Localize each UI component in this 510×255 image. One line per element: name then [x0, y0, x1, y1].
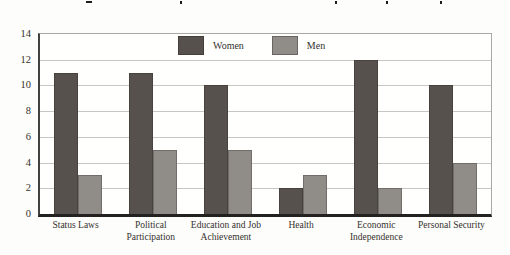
cropped-title-fragment: [86, 1, 92, 3]
plot-area: Women Men: [38, 33, 492, 217]
y-tick-label-0: 0: [0, 208, 31, 219]
bar-men: [153, 150, 177, 214]
bar-group: [115, 34, 190, 214]
legend: Women Men: [178, 36, 325, 55]
bar-group: [266, 34, 341, 214]
bar-women: [204, 85, 228, 214]
legend-label-women: Women: [213, 40, 244, 51]
x-category-label: Status Laws: [38, 219, 113, 244]
bar-women: [354, 60, 378, 214]
x-category-label: Personal Security: [414, 219, 489, 244]
bar-group: [416, 34, 491, 214]
bar-group: [190, 34, 265, 214]
bar-men: [378, 188, 402, 214]
y-tick-label-10: 10: [0, 79, 31, 90]
bar-men: [303, 175, 327, 214]
bar-women: [54, 73, 78, 214]
x-axis-labels: Status LawsPolitical ParticipationEducat…: [38, 219, 489, 244]
cropped-title-fragment: [440, 1, 442, 4]
y-tick-label-6: 6: [0, 131, 31, 142]
bar-men: [453, 163, 477, 214]
x-category-label: Economic Independence: [339, 219, 414, 244]
bar-men: [78, 175, 102, 214]
legend-item-men: Men: [272, 36, 325, 55]
bar-women: [429, 85, 453, 214]
bar-group: [40, 34, 115, 214]
bar-groups: [40, 34, 491, 214]
x-category-label: Political Participation: [113, 219, 188, 244]
men-color-swatch: [272, 36, 298, 55]
bar-women: [129, 73, 153, 214]
women-color-swatch: [178, 36, 204, 55]
x-category-label: Health: [264, 219, 339, 244]
bar-group: [341, 34, 416, 214]
cropped-title-fragment: [180, 1, 182, 4]
bar-women: [279, 188, 303, 214]
cropped-title-fragment: [386, 1, 388, 4]
y-tick-label-2: 2: [0, 182, 31, 193]
x-category-label: Education and Job Achievement: [188, 219, 263, 244]
y-tick-label-8: 8: [0, 105, 31, 116]
legend-label-men: Men: [307, 40, 325, 51]
y-tick-label-4: 4: [0, 157, 31, 168]
bar-men: [228, 150, 252, 214]
y-tick-label-14: 14: [0, 28, 31, 39]
cropped-title-fragment: [335, 1, 337, 4]
legend-item-women: Women: [178, 36, 244, 55]
y-tick-label-12: 12: [0, 54, 31, 65]
